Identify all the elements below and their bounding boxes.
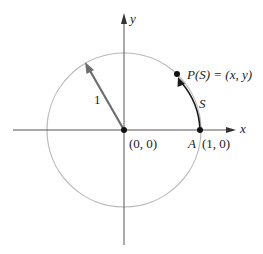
diagram-canvas	[0, 0, 263, 254]
point-p-label: P(S) = (x, y)	[187, 68, 252, 81]
point-a-label: A	[188, 137, 196, 150]
radius-arrowhead-icon	[85, 62, 94, 74]
y-axis-label: y	[130, 12, 136, 25]
x-axis-label: x	[240, 122, 246, 135]
point-p	[174, 71, 180, 77]
point-a-coords-label: (1, 0)	[202, 137, 230, 150]
origin-label: (0, 0)	[129, 137, 157, 150]
origin-point	[121, 127, 127, 133]
y-axis-arrow-icon	[121, 13, 127, 24]
x-axis-arrow-icon	[226, 127, 236, 133]
radius-label: 1	[94, 93, 101, 106]
arc-length-label: S	[199, 97, 206, 110]
point-a	[197, 127, 203, 133]
unit-circle-diagram: x y (0, 0) A (1, 0) P(S) = (x, y) S 1	[0, 0, 263, 254]
